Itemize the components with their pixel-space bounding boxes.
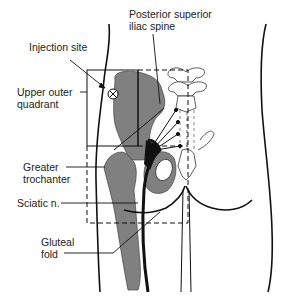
gluteal-cleft	[181, 190, 191, 292]
label-gluteal-fold: Gluteal fold	[41, 236, 74, 260]
label-uoq-line1: Upper outer	[17, 86, 72, 98]
label-upper-outer-quadrant: Upper outer quadrant	[17, 86, 72, 110]
right-body-outline	[261, 24, 272, 292]
left-body-outline	[96, 24, 110, 292]
gluteal-fold-right	[186, 186, 252, 210]
label-gt-line1: Greater	[23, 161, 70, 173]
label-greater-trochanter: Greater trochanter	[23, 161, 70, 185]
circled-x-icon	[108, 89, 118, 99]
label-sciatic-nerve: Sciatic n.	[17, 197, 60, 209]
sacral-curve	[198, 131, 214, 150]
label-psis-line1: Posterior superior	[129, 8, 212, 20]
label-psis: Posterior superior iliac spine	[129, 8, 212, 32]
label-gf-line1: Gluteal	[41, 236, 74, 248]
label-psis-line2: iliac spine	[129, 20, 212, 32]
label-injection-site: Injection site	[29, 41, 87, 53]
femur-bone	[104, 152, 140, 290]
label-uoq-line2: quadrant	[17, 98, 72, 110]
label-gt-line2: trochanter	[23, 173, 70, 185]
label-gf-line2: fold	[41, 248, 74, 260]
